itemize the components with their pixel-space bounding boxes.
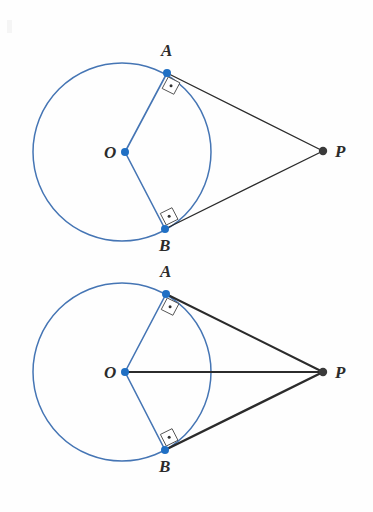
circle-with-two-tangents: OABP (33, 41, 346, 255)
figure-sheet: OABPOABP (0, 0, 373, 512)
label-A: A (159, 262, 171, 281)
radius-OB (125, 372, 165, 450)
radius-OA (125, 294, 166, 372)
label-P: P (334, 363, 346, 382)
point-B (161, 446, 169, 454)
right-angle-marker-B-dot (168, 215, 171, 218)
radius-OA (125, 73, 167, 152)
point-B (161, 225, 169, 233)
point-P (319, 368, 327, 376)
circle-with-two-tangents-and-OP: OABP (33, 262, 346, 476)
label-P: P (334, 142, 346, 161)
point-A (162, 290, 170, 298)
label-A: A (160, 41, 172, 60)
background-speck (7, 20, 12, 33)
tangent-AP (167, 73, 323, 151)
right-angle-marker-B-dot (168, 436, 171, 439)
right-angle-marker-A-dot (169, 305, 172, 308)
tangent-AP (166, 294, 323, 372)
geometry-figure-canvas: OABPOABP (0, 0, 373, 512)
point-O (121, 368, 129, 376)
label-B: B (158, 236, 170, 255)
right-angle-marker-A-dot (170, 84, 173, 87)
label-B: B (158, 457, 170, 476)
tangent-BP (165, 151, 323, 229)
point-A (163, 69, 171, 77)
label-O: O (104, 363, 116, 382)
label-O: O (104, 143, 116, 162)
point-P (319, 147, 327, 155)
point-O (121, 148, 129, 156)
radius-OB (125, 152, 165, 229)
tangent-BP (165, 372, 323, 450)
